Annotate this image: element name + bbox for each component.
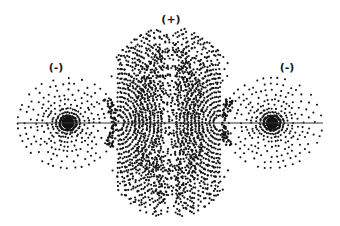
density-dots: [17, 28, 323, 217]
right-negative-phase-label: (-): [280, 61, 295, 74]
dot-density-plot: [0, 0, 340, 226]
orbital-diagram: (+) (-) (-): [0, 0, 340, 226]
left-negative-phase-label: (-): [49, 61, 64, 74]
positive-phase-label: (+): [161, 13, 180, 26]
